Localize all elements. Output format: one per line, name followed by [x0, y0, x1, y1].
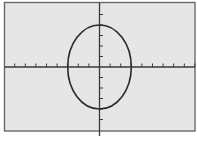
graphing-calculator-screen: [0, 0, 197, 142]
ellipse-plot: [0, 0, 197, 142]
